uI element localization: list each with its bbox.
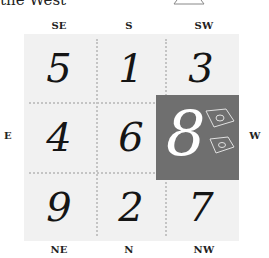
- grid-cell-w-highlighted: 8: [156, 95, 239, 180]
- cell-number: 5: [46, 48, 71, 88]
- grid-cell-s: 1: [96, 34, 166, 102]
- cell-number: 1: [118, 48, 143, 88]
- cell-number: 6: [118, 117, 143, 157]
- ingot-icon: [172, 0, 206, 6]
- grid-cell-n: 2: [96, 173, 166, 241]
- direction-label-ne: NE: [39, 244, 79, 255]
- cell-number: 3: [188, 48, 213, 88]
- cell-number: 2: [118, 187, 143, 227]
- cell-number: 4: [46, 117, 71, 157]
- grid-cell-sw: 3: [166, 34, 236, 102]
- caption: the West: [0, 0, 66, 9]
- cell-number: 7: [188, 187, 213, 227]
- money-bills-icon: [204, 107, 236, 131]
- cell-number: 9: [46, 187, 71, 227]
- direction-label-nw: NW: [184, 244, 224, 255]
- direction-label-sw: SW: [184, 20, 224, 31]
- cell-number-highlighted: 8: [166, 103, 205, 165]
- direction-label-s: S: [109, 20, 149, 31]
- grid-cell-e: 4: [24, 103, 94, 171]
- money-bills-icon: [208, 135, 236, 155]
- direction-label-se: SE: [39, 20, 79, 31]
- direction-label-n: N: [109, 244, 149, 255]
- grid-cell-ne: 9: [24, 173, 94, 241]
- grid-cell-nw: 7: [166, 173, 236, 241]
- grid-cell-se: 5: [24, 34, 94, 102]
- direction-label-w: W: [235, 130, 269, 141]
